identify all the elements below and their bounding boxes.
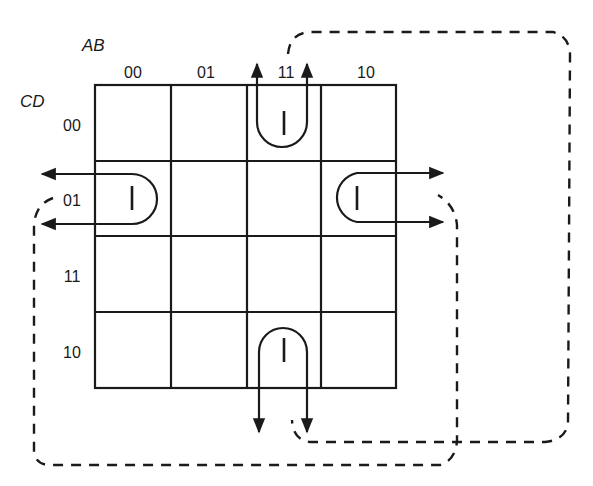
row-label-01: 01 — [63, 192, 81, 209]
row-variable-label: CD — [20, 92, 45, 111]
col-variable-label: AB — [81, 36, 105, 55]
karnaugh-map-diagram: AB CD 00 01 11 10 00 01 11 10 — [0, 0, 593, 486]
col-label-01: 01 — [197, 64, 215, 81]
row-label-00: 00 — [63, 117, 81, 134]
row-label-10: 10 — [63, 344, 81, 361]
loop-right-cell — [337, 173, 443, 222]
kmap-grid — [95, 85, 396, 388]
row-label-11: 11 — [64, 268, 81, 285]
loop-left-cell — [42, 174, 157, 224]
col-label-11: 11 — [278, 64, 295, 81]
col-label-10: 10 — [357, 64, 375, 81]
col-label-00: 00 — [124, 64, 142, 81]
